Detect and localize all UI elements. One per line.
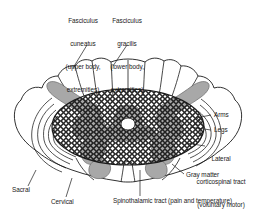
leader-cervical [66, 178, 72, 197]
label-fasciculus-gracilis-line3: (lower body, [101, 63, 153, 71]
leader-sacral [28, 170, 36, 186]
label-fasciculus-gracilis-line1: Fasciculus [101, 17, 153, 25]
label-spinothalamic-tract: Spinothalamic tract (pain and temperatur… [113, 197, 232, 205]
spinal-cord-diagram: Fasciculus cuneatus (upper body, extremi… [0, 0, 259, 214]
label-arms: Arms [214, 111, 229, 119]
label-legs: Legs [214, 126, 228, 134]
central-canal [121, 118, 135, 130]
label-lateral-corticospinal-line1: Lateral [183, 155, 259, 163]
label-fasciculus-gracilis-line4: extremities) [101, 86, 153, 94]
label-gray-matter: Gray matter [186, 171, 219, 179]
label-cervical: Cervical [51, 198, 74, 206]
label-lateral-corticospinal-line2: corticospinal tract [183, 178, 259, 186]
central-canal-group [121, 118, 135, 130]
label-fasciculus-gracilis: Fasciculus gracilis (lower body, extremi… [101, 2, 153, 108]
label-sacral: Sacral [12, 186, 30, 194]
label-fasciculus-gracilis-line2: gracilis [101, 40, 153, 48]
